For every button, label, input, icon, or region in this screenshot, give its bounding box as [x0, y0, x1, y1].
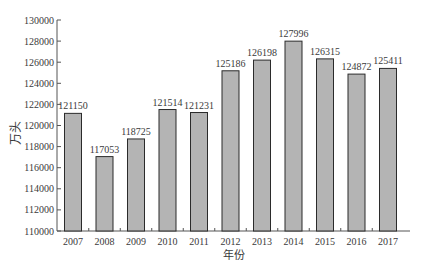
- x-tick-label: 2013: [252, 236, 272, 247]
- y-axis-title: 万头: [9, 121, 23, 145]
- x-tick-label: 2012: [221, 236, 241, 247]
- data-label: 124872: [342, 61, 372, 72]
- y-tick-label: 114000: [24, 183, 54, 194]
- y-tick-label: 124000: [24, 78, 54, 89]
- y-tick-label: 130000: [24, 15, 54, 26]
- y-tick-label: 110000: [24, 226, 54, 237]
- y-tick-label: 120000: [24, 120, 54, 131]
- y-tick-label: 126000: [24, 57, 54, 68]
- x-tick-label: 2009: [126, 236, 146, 247]
- data-label: 126315: [310, 46, 340, 57]
- x-tick-label: 2008: [95, 236, 115, 247]
- x-tick-label: 2016: [347, 236, 367, 247]
- bar-2013: [254, 60, 271, 231]
- bar-2009: [128, 139, 145, 231]
- x-tick-label: 2017: [378, 236, 398, 247]
- data-label: 125186: [216, 58, 246, 69]
- data-label: 127996: [279, 28, 309, 39]
- data-label: 117053: [90, 144, 120, 155]
- data-label: 118725: [121, 126, 151, 137]
- y-tick-label: 116000: [24, 162, 54, 173]
- bar-2014: [285, 41, 302, 231]
- data-label: 126198: [247, 47, 277, 58]
- data-label: 121514: [153, 97, 183, 108]
- bar-2011: [191, 113, 208, 231]
- x-tick-label: 2015: [315, 236, 335, 247]
- y-tick-label: 122000: [24, 99, 54, 110]
- data-label: 121231: [184, 100, 214, 111]
- x-tick-label: 2011: [189, 236, 209, 247]
- bar-2008: [96, 157, 113, 231]
- bar-2016: [348, 74, 365, 231]
- bar-chart: 1100001120001140001160001180001200001220…: [0, 0, 423, 269]
- y-tick-label: 128000: [24, 36, 54, 47]
- x-tick-label: 2010: [158, 236, 178, 247]
- data-label: 125411: [373, 55, 403, 66]
- y-axis: 1100001120001140001160001180001200001220…: [24, 15, 61, 237]
- x-axis-title: 年份: [223, 248, 245, 261]
- x-tick-label: 2014: [284, 236, 304, 247]
- y-tick-label: 118000: [24, 141, 54, 152]
- bar-2015: [317, 59, 334, 231]
- x-tick-label: 2007: [63, 236, 83, 247]
- bar-2017: [380, 68, 397, 231]
- bar-2007: [65, 113, 82, 231]
- data-label: 121150: [58, 100, 88, 111]
- bar-2012: [222, 71, 239, 231]
- y-tick-label: 112000: [24, 204, 54, 215]
- bar-2010: [159, 110, 176, 231]
- chart-canvas: 1100001120001140001160001180001200001220…: [0, 0, 423, 269]
